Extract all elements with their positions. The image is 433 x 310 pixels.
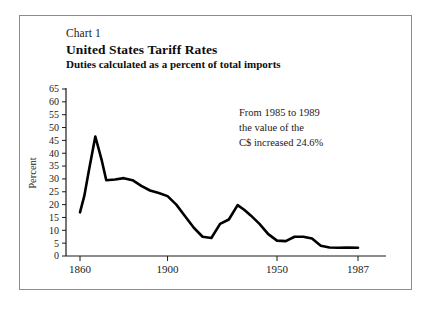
- y-tick-label: 65: [49, 83, 59, 94]
- y-tick-label: 0: [54, 250, 59, 261]
- y-tick-label: 40: [49, 148, 59, 159]
- x-tick-label: 1900: [157, 263, 180, 275]
- x-tick-label: 1950: [266, 263, 289, 275]
- y-axis: 05101520253035404550556065: [49, 83, 66, 261]
- y-tick-label: 15: [49, 212, 59, 223]
- y-tick-label: 55: [49, 109, 59, 120]
- y-tick-label: 45: [49, 135, 59, 146]
- x-tick-label: 1987: [347, 263, 370, 275]
- chart-figure: Chart 1 United States Tariff Rates Dutie…: [0, 0, 433, 310]
- data-series: [80, 137, 358, 248]
- y-tick-label: 50: [49, 122, 59, 133]
- y-tick-label: 5: [54, 238, 59, 249]
- y-tick-label: 60: [49, 96, 59, 107]
- x-tick-label: 1860: [69, 263, 92, 275]
- y-tick-label: 30: [49, 173, 59, 184]
- y-tick-label: 10: [49, 225, 59, 236]
- plot-area: 05101520253035404550556065 1860190019501…: [0, 0, 433, 310]
- x-axis: 1860190019501987: [66, 256, 386, 275]
- series-line: [80, 137, 358, 248]
- y-tick-label: 25: [49, 186, 59, 197]
- y-tick-label: 35: [49, 160, 59, 171]
- y-tick-label: 20: [49, 199, 59, 210]
- y-axis-title: Percent: [27, 157, 38, 189]
